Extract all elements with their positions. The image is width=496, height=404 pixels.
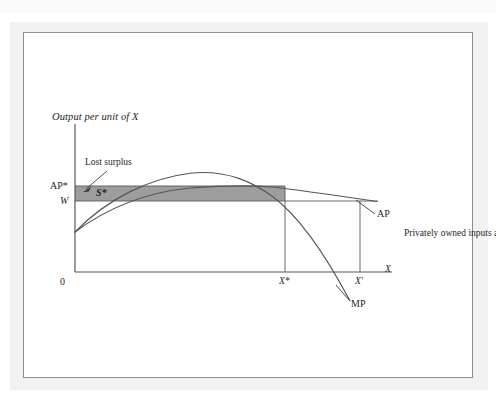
x-axis-side-note: Privately owned inputs applied to a comm… [404, 228, 478, 239]
lost-surplus-annotation: Lost surplus [85, 158, 132, 168]
marginal-product-curve-label: MP [351, 299, 365, 309]
ap-label-leader-line [356, 200, 375, 214]
ap-star-level-label: AP* [50, 181, 68, 191]
x-prime-tick-label: X' [355, 277, 363, 287]
origin-label: 0 [60, 277, 65, 287]
x-axis-label: X [385, 265, 391, 275]
diagram-svg [0, 0, 496, 404]
figure-page: Output per unit of X Lost surplus AP* W … [0, 0, 496, 404]
surplus-region-label: S* [96, 188, 107, 198]
x-star-tick-label: X* [279, 277, 290, 287]
y-axis-title: Output per unit of X [52, 112, 139, 123]
average-product-curve-label: AP [377, 209, 390, 219]
wage-level-label: W [60, 196, 68, 206]
